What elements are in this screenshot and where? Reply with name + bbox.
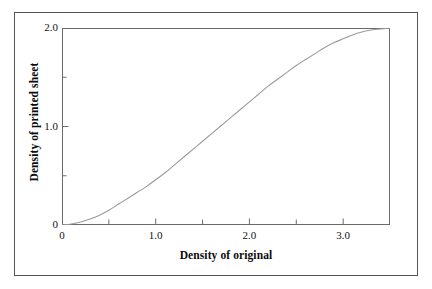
- series-line-0: [62, 28, 390, 225]
- x-axis-tick-labels: 01.02.03.0: [62, 230, 390, 246]
- figure-container: 01.02.0 01.02.03.0 Density of original D…: [0, 0, 432, 289]
- x-axis-title: Density of original: [62, 249, 390, 261]
- plot-svg: [62, 28, 390, 225]
- x-tick-label: 2.0: [243, 230, 257, 241]
- x-tick-label: 0: [59, 230, 65, 241]
- x-tick-label: 3.0: [336, 230, 350, 241]
- y-axis-title: Density of printed sheet: [28, 22, 40, 222]
- y-tick-label: 0: [53, 219, 59, 230]
- y-tick-label: 2.0: [44, 22, 58, 33]
- plot-area: [62, 28, 390, 225]
- data-curve-group: [62, 28, 390, 225]
- tick-marks-group: [63, 29, 390, 225]
- y-tick-label: 1.0: [44, 121, 58, 132]
- x-tick-label: 1.0: [149, 230, 163, 241]
- axes-group: [63, 29, 390, 225]
